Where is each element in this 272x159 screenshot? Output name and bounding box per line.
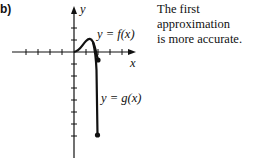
note-line-1: The first approximation	[157, 2, 272, 32]
y-axis-label: y	[80, 2, 86, 17]
x-axis-arrow-icon	[128, 49, 136, 55]
note: The first approximation is more accurate…	[157, 2, 272, 47]
y-axis-arrow-icon	[71, 6, 77, 14]
x-axis-label: x	[130, 56, 136, 71]
curve-f-label: y = f(x)	[97, 27, 135, 42]
curve-g-label: y = g(x)	[101, 91, 141, 106]
curve-g-endpoint	[95, 132, 100, 137]
note-line-2: is more accurate.	[157, 32, 272, 47]
